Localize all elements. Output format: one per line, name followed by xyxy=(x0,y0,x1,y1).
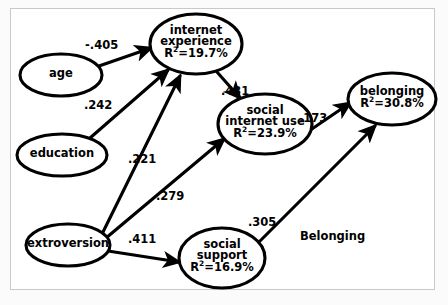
path-coefficient-social-internet-use-to-belonging: .173 xyxy=(299,111,327,125)
node-ellipse-social-internet-use xyxy=(218,94,312,154)
path-diagram-svg xyxy=(0,0,448,305)
path-coefficient-internet-experience-to-social-internet-use: .431 xyxy=(221,84,249,98)
node-ellipse-extroversion xyxy=(26,224,110,266)
path-coefficient-extroversion-to-social-support: .411 xyxy=(128,232,156,246)
figure-canvas: ageeducationextroversioninternetexperien… xyxy=(0,0,448,305)
figure-caption: Belonging xyxy=(300,229,365,243)
path-coefficient-extroversion-to-internet-experience: .221 xyxy=(128,152,156,166)
node-ellipse-age xyxy=(20,54,102,96)
path-coefficient-education-to-internet-experience: .242 xyxy=(84,98,112,112)
path-coefficient-extroversion-to-social-internet-use: .279 xyxy=(156,189,184,203)
path-arrow-extroversion-to-social-support xyxy=(108,251,179,262)
path-coefficient-age-to-internet-experience: -.405 xyxy=(85,38,118,52)
node-ellipses-group xyxy=(17,14,436,288)
path-coefficient-social-support-to-belonging: .305 xyxy=(248,215,276,229)
node-ellipse-education xyxy=(17,134,107,176)
node-ellipse-belonging xyxy=(348,73,436,125)
node-ellipse-internet-experience xyxy=(150,14,242,74)
node-ellipse-social-support xyxy=(179,228,265,288)
